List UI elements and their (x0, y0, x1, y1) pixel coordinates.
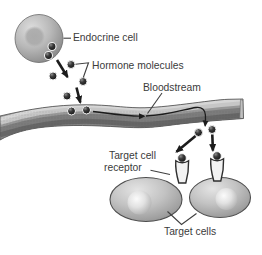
target-cell-receptor-label-line1: Target cell (109, 150, 156, 161)
endocrine-cell-label: Endocrine cell (73, 32, 138, 43)
receptor-1 (176, 154, 189, 183)
receptor-2 (211, 152, 224, 181)
vesicle-molecule (45, 52, 53, 60)
hormone-molecule (195, 129, 203, 137)
receptor-bound-molecule-1 (178, 154, 187, 163)
receptor-bound-molecule-2 (213, 152, 222, 161)
secretion-arrow-1 (57, 60, 68, 77)
endocrine-cell (15, 15, 63, 63)
hormone-molecules-leader-line (76, 63, 89, 78)
target-cells-label: Target cells (164, 226, 216, 237)
hormone-molecule (63, 92, 71, 100)
target-cell-receptor-label-line2: receptor (104, 162, 142, 173)
target-cell-2 (190, 178, 251, 218)
delivery-arrow-1 (177, 136, 196, 152)
diagram-canvas: Endocrine cell Hormone molecules Bloodst… (0, 0, 262, 255)
hormone-molecule (68, 107, 76, 115)
hormone-molecule (67, 61, 75, 69)
secretion-arrow-2 (77, 88, 81, 103)
bloodstream-label: Bloodstream (143, 82, 201, 93)
target-cell-1-nucleus (128, 191, 152, 215)
hormone-molecule (49, 72, 57, 80)
hormone-molecule (208, 126, 216, 134)
target-cell-receptor-label: Target cell receptor (104, 150, 156, 173)
vessel-end-cap (240, 100, 245, 120)
receptor-leader-line (151, 170, 171, 174)
hormone-signaling-diagram: Endocrine cell Hormone molecules Bloodst… (0, 0, 262, 255)
vesicle-molecule (48, 43, 56, 51)
hormone-molecule (79, 78, 87, 86)
hormone-molecule (83, 106, 91, 114)
hormone-molecules-label: Hormone molecules (92, 60, 184, 71)
delivery-arrow-2 (212, 135, 213, 151)
target-cell-2-nucleus (216, 188, 238, 210)
bloodstream-vessel (0, 94, 248, 146)
endocrine-cell-nucleus (24, 26, 45, 47)
